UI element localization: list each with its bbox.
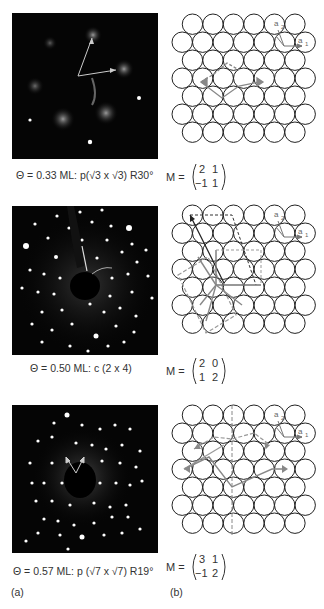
- matrix-3: M = 3 1 −1 2: [166, 553, 246, 581]
- leed-pattern-2: [12, 206, 158, 355]
- svg-text:a: a: [274, 19, 279, 28]
- svg-text:1: 1: [305, 232, 309, 238]
- svg-text:a: a: [274, 410, 279, 419]
- leed-spots-3: [12, 405, 158, 553]
- matrix-1: M = 2 1 −1 1: [166, 163, 246, 191]
- leed-pattern-3: [12, 405, 158, 553]
- svg-text:a: a: [298, 427, 303, 436]
- leed-spots-1: [12, 13, 158, 159]
- column-label-b: (b): [170, 586, 183, 598]
- panel-2-caption: Θ = 0.50 ML: c (2 x 4): [30, 362, 132, 374]
- substrate-lattice-1: a 2 a 1: [164, 6, 324, 146]
- leed-spots-2: [12, 206, 158, 355]
- svg-text:1: 1: [305, 41, 309, 47]
- panel-3-caption: Θ = 0.57 ML: p (√7 x √7) R19°: [13, 565, 153, 577]
- svg-text:1: 1: [305, 432, 309, 438]
- substrate-lattice-3: a 2 a 1: [164, 397, 324, 542]
- svg-text:a: a: [298, 227, 303, 236]
- column-label-a: (a): [11, 586, 24, 598]
- leed-pattern-1: [12, 13, 158, 159]
- svg-text:a: a: [298, 36, 303, 45]
- panel-1-caption: Θ = 0.33 ML: p(√3 x √3) R30°: [16, 169, 153, 181]
- substrate-lattice-2: a 2 a 1: [164, 197, 324, 342]
- svg-text:a: a: [274, 210, 279, 219]
- matrix-2: M = 2 0 1 2: [166, 357, 246, 385]
